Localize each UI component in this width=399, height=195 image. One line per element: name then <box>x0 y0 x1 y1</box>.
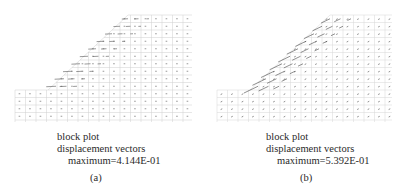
plot-subtitle: displacement vectors <box>57 143 161 155</box>
panel-b: block plot displacement vectors maximum=… <box>200 0 399 195</box>
maximum-value: maximum=5.392E-01 <box>266 155 370 167</box>
maximum-value: maximum=4.144E-01 <box>57 155 161 167</box>
slope-mesh-plot-b <box>200 0 399 125</box>
caption-a: block plot displacement vectors maximum=… <box>57 131 161 167</box>
panel-label-a: (a) <box>90 172 102 183</box>
slope-mesh-plot-a <box>0 0 200 125</box>
panel-a: block plot displacement vectors maximum=… <box>0 0 200 195</box>
panel-label-b: (b) <box>300 172 312 183</box>
plot-title: block plot <box>266 131 370 143</box>
plot-title: block plot <box>57 131 161 143</box>
plot-subtitle: displacement vectors <box>266 143 370 155</box>
caption-b: block plot displacement vectors maximum=… <box>266 131 370 167</box>
